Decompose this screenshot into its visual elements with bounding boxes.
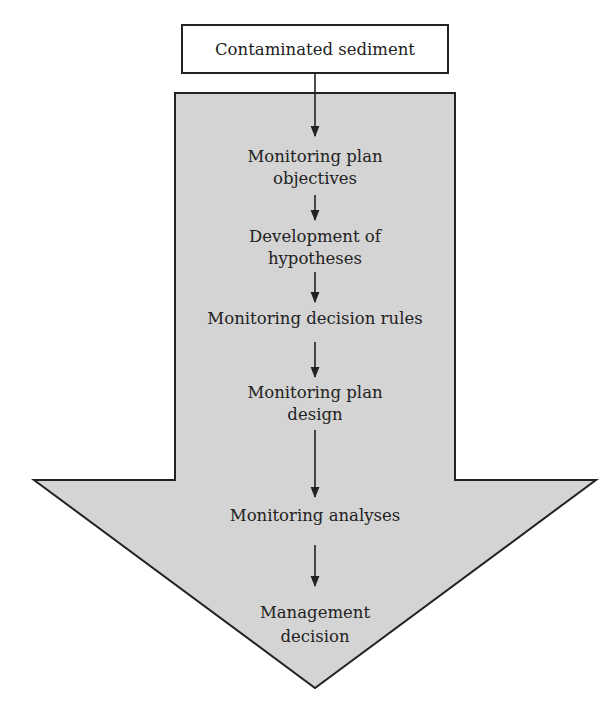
step-monitoring-decision-rules: Monitoring decision rules bbox=[207, 309, 422, 328]
step-label-line: Management bbox=[260, 603, 371, 622]
step-label-line: Monitoring plan bbox=[247, 383, 383, 402]
step-label-line: Monitoring plan bbox=[247, 147, 383, 166]
input-box: Contaminated sediment bbox=[182, 25, 448, 73]
step-label-line: Development of bbox=[249, 227, 383, 246]
step-label-line: design bbox=[287, 405, 343, 424]
flowchart-diagram: Contaminated sediment Monitoring plan ob… bbox=[0, 0, 616, 710]
input-box-label: Contaminated sediment bbox=[215, 40, 415, 59]
step-label-line: objectives bbox=[273, 169, 357, 188]
step-label-line: hypotheses bbox=[268, 249, 362, 268]
step-label-line: Monitoring analyses bbox=[230, 506, 401, 525]
step-monitoring-analyses: Monitoring analyses bbox=[230, 506, 401, 525]
step-label-line: Monitoring decision rules bbox=[207, 309, 422, 328]
step-label-line: decision bbox=[280, 627, 350, 646]
